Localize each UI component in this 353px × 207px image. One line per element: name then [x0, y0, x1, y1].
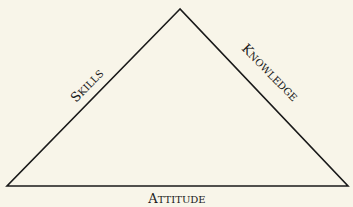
side-label-knowledge: KNOWLEDGE [239, 41, 302, 105]
svg-text:KNOWLEDGE: KNOWLEDGE [239, 41, 302, 105]
side-label-skills: SKILLS [67, 66, 106, 106]
side-label-attitude: ATTITUDE [147, 191, 205, 206]
svg-text:SKILLS: SKILLS [67, 66, 106, 106]
triangle-diagram: SKILLS KNOWLEDGE ATTITUDE [0, 0, 353, 207]
